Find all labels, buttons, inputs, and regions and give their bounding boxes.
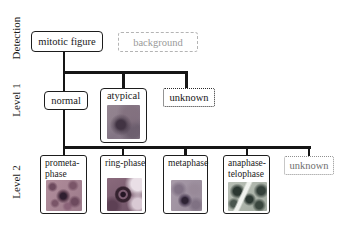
connector-normal-down: [63, 110, 66, 147]
atypical-histology-thumbnail: [107, 105, 140, 139]
connector-level2-horizontal: [63, 146, 311, 149]
node-mitotic-figure-label: mitotic figure: [38, 36, 95, 47]
prometaphase-histology-thumbnail: [46, 180, 82, 211]
anaphase-telophase-histology-thumbnail: [228, 182, 267, 211]
node-unknown-level1-label: unknown: [169, 92, 208, 103]
connector-to-normal: [63, 73, 66, 91]
node-unknown-level2-label: unknown: [289, 160, 328, 171]
row-label-level-1: Level 1: [9, 60, 23, 140]
ring-phase-histology-thumbnail: [107, 178, 142, 211]
node-normal-label: normal: [51, 95, 81, 106]
node-atypical: atypical: [100, 88, 147, 143]
node-background-label: background: [133, 37, 183, 48]
node-mitotic-figure: mitotic figure: [31, 31, 103, 52]
node-prometaphase-label: prometa-phase: [41, 156, 86, 179]
connector-to-ring-phase: [122, 148, 125, 155]
connector-to-prometaphase: [63, 148, 66, 155]
connector-to-atypical: [122, 73, 125, 88]
node-anaphase-telophase-label: anaphase-telophase: [224, 156, 269, 179]
node-unknown-level2: unknown: [284, 156, 334, 175]
node-metaphase-label: metaphase: [164, 156, 207, 169]
node-ring-phase: ring-phase: [100, 155, 146, 214]
row-label-level-2: Level 2: [9, 142, 23, 222]
node-unknown-level1: unknown: [163, 88, 215, 107]
node-background: background: [118, 32, 198, 52]
connector-to-metaphase: [184, 148, 187, 155]
connector-to-anaphase-telophase: [246, 148, 249, 155]
metaphase-histology-thumbnail: [171, 180, 202, 211]
node-normal: normal: [44, 91, 88, 110]
mitotic-figure-classification-tree: Detection Level 1 Level 2 mitotic figure…: [0, 0, 345, 226]
node-metaphase: metaphase: [163, 155, 208, 214]
connector-mitotic-down: [63, 52, 66, 72]
node-ring-phase-label: ring-phase: [101, 156, 145, 169]
node-anaphase-telophase: anaphase-telophase: [223, 155, 270, 214]
node-atypical-label: atypical: [101, 89, 146, 101]
node-prometaphase: prometa-phase: [40, 155, 87, 214]
connector-level1-horizontal: [63, 71, 188, 74]
connector-to-unknown-level1: [185, 73, 188, 88]
